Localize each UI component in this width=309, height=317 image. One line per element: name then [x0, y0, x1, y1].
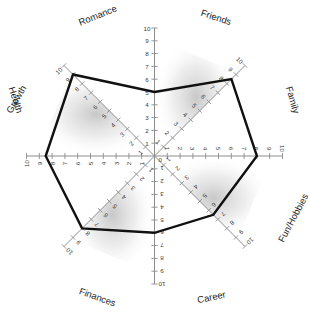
- axis-tick-label: 1: [138, 161, 145, 165]
- axis-tick-label: 9: [266, 147, 273, 151]
- axis-tick-label: 3: [145, 114, 149, 121]
- axis-tick-label: 5: [160, 217, 164, 224]
- axis-tick-label: 7: [145, 63, 149, 70]
- radar-chart-svg: 1234567891012345678910123456789101234567…: [0, 0, 309, 317]
- axes-layer: 1234567891012345678910123456789101234567…: [23, 25, 286, 288]
- axis-tick-label: 10: [279, 145, 286, 152]
- axis-tick-label: 8: [145, 50, 149, 57]
- sector-shade-0: [155, 38, 238, 156]
- axis-title-romance: Romance: [77, 2, 118, 27]
- axis-title-family: Family: [284, 85, 302, 115]
- axis-tick-label: 5: [87, 161, 94, 165]
- axis-tick-label: 7: [61, 161, 68, 165]
- axis-tick-label: 10: [144, 25, 151, 32]
- axis-tick-label: 3: [160, 191, 164, 198]
- axis-tick-label: 6: [145, 76, 149, 83]
- axis-tick-label: 10: [23, 160, 30, 167]
- axis-tick-label: 8: [160, 255, 164, 262]
- center-zero-label: 0: [159, 156, 163, 163]
- axis-tick-label: 6: [228, 147, 235, 151]
- axis-tick-label: 4: [100, 161, 107, 165]
- axis-title-friends: Friends: [200, 7, 233, 27]
- axis-tick-label: 1: [164, 147, 171, 151]
- axis-tick-label: 4: [145, 101, 149, 108]
- axis-tick-label: 9: [36, 161, 43, 165]
- sector-shade-3: [37, 73, 155, 156]
- axis-tick-label: 3: [113, 161, 120, 165]
- axis-title-fun-hobbies: Fun/Hobbies: [276, 191, 309, 243]
- axis-tick-label: 2: [125, 161, 132, 165]
- axis-tick-label: 4: [202, 147, 209, 151]
- axis-tick-label: 7: [241, 147, 248, 151]
- axis-tick-label: 1: [160, 165, 164, 172]
- axis-tick-label: 6: [74, 161, 81, 165]
- axis-tick-label: 7: [160, 242, 164, 249]
- axis-tick-label: 5: [215, 147, 222, 151]
- axis-tick-label: 2: [177, 147, 184, 151]
- wheel-of-life-chart: 1234567891012345678910123456789101234567…: [0, 0, 309, 317]
- axis-tick-label: 4: [160, 204, 164, 211]
- axis-tick-label: 10: [158, 281, 165, 288]
- sector-shade-2: [71, 156, 154, 274]
- axis-tick-label: 9: [145, 37, 149, 44]
- axis-tick-label: 2: [145, 127, 149, 134]
- axis-tick-label: 3: [189, 147, 196, 151]
- axis-tick-label: 9: [160, 268, 164, 275]
- axis-tick-label: 2: [160, 178, 164, 185]
- axis-title-finances: Finances: [78, 285, 118, 308]
- axis-title-career: Career: [196, 289, 226, 306]
